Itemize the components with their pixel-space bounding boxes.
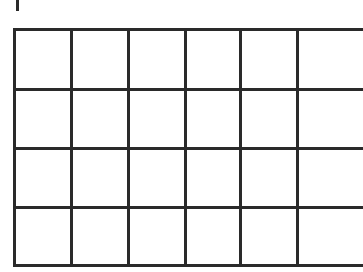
empty-grid bbox=[13, 28, 363, 267]
cropped-glyph-mark bbox=[16, 0, 19, 11]
grid-row-line bbox=[16, 88, 363, 91]
grid-row-line bbox=[16, 206, 363, 209]
grid-row-line bbox=[16, 147, 363, 150]
